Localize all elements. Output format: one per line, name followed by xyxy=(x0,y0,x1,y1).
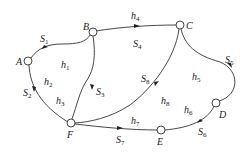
edge-label-s2: S2 xyxy=(23,87,32,100)
node-label-c: C xyxy=(186,20,193,31)
edge-label-s3: S3 xyxy=(96,86,105,99)
region-label-h8: h8 xyxy=(161,95,170,108)
node-f xyxy=(67,119,75,127)
region-label-h3: h3 xyxy=(56,95,65,108)
edge-label-s7: S7 xyxy=(116,134,125,147)
region-label-h5: h5 xyxy=(192,71,201,84)
region-label-h2: h2 xyxy=(44,76,53,89)
edge-c-d xyxy=(181,29,235,101)
arrow-h4 xyxy=(134,24,140,28)
edge-c-f xyxy=(75,29,179,123)
node-label-d: D xyxy=(218,109,227,120)
region-label-h7: h7 xyxy=(131,115,140,128)
region-label-h4: h4 xyxy=(131,10,140,23)
network-diagram: A B C D E F S1 S2 S3 S4 S5 S6 S7 S8 h1 h… xyxy=(0,0,250,154)
node-b xyxy=(89,28,97,36)
edge-a-f xyxy=(29,65,68,122)
edge-label-s4: S4 xyxy=(133,38,142,51)
arrow-s3 xyxy=(90,84,94,90)
node-c xyxy=(176,21,184,29)
edge-b-f xyxy=(72,36,94,119)
region-label-h6: h6 xyxy=(184,104,193,117)
edge-label-s8: S8 xyxy=(141,73,150,86)
edge-f-e xyxy=(75,124,158,130)
node-d xyxy=(212,99,220,107)
node-label-e: E xyxy=(156,136,163,147)
arrow-s8 xyxy=(154,81,159,86)
node-label-a: A xyxy=(15,56,23,67)
node-label-b: B xyxy=(83,21,89,32)
arrow-s7 xyxy=(117,126,123,130)
edge-label-s1: S1 xyxy=(40,33,49,46)
node-a xyxy=(24,57,32,65)
node-e xyxy=(157,126,165,134)
region-label-h1: h1 xyxy=(61,59,70,72)
edge-label-s6: S6 xyxy=(198,126,207,139)
node-label-f: F xyxy=(66,129,74,140)
